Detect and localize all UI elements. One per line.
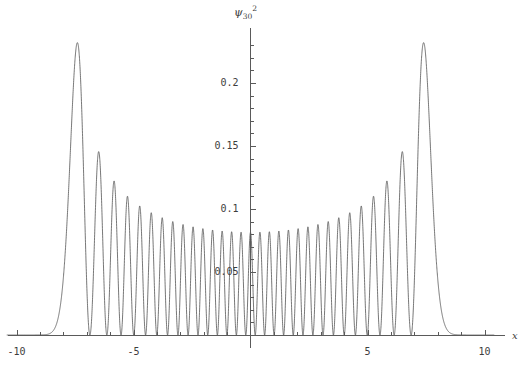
x-axis-ticks bbox=[18, 330, 486, 335]
plot-canvas bbox=[0, 0, 532, 369]
x-tick-label: -10 bbox=[7, 347, 25, 357]
y-tick-label: 0.1 bbox=[199, 204, 239, 214]
x-axis-label: x bbox=[512, 330, 518, 341]
y-tick-label: 0.15 bbox=[199, 141, 239, 151]
axes-group bbox=[8, 28, 505, 348]
plot-figure: -10-5510 0.050.10.150.2 x ψ302 bbox=[0, 0, 532, 369]
y-tick-label: 0.05 bbox=[199, 267, 239, 277]
y-tick-label: 0.2 bbox=[199, 78, 239, 88]
psi-superscript: 2 bbox=[252, 4, 257, 13]
psi-glyph: ψ bbox=[234, 6, 243, 19]
x-tick-label: -5 bbox=[127, 347, 139, 357]
psi-subscript: 30 bbox=[243, 12, 253, 21]
x-tick-label: 5 bbox=[364, 347, 370, 357]
x-tick-label: 10 bbox=[478, 347, 490, 357]
y-axis-label: ψ302 bbox=[234, 4, 257, 21]
